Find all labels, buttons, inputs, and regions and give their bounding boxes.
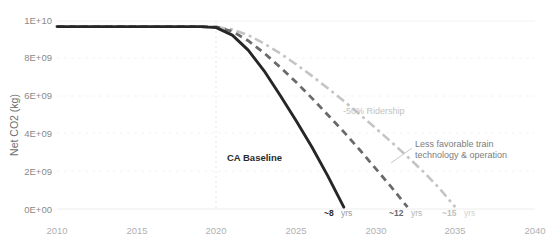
annotation-baseline-unit: yrs: [341, 208, 352, 218]
y-tick-4e09: 4E+09: [24, 128, 52, 139]
x-tick-2040: 2040: [524, 225, 545, 236]
annotation-ridership-years: ~15: [442, 208, 457, 218]
annotation-ridership-unit: yrs: [464, 208, 475, 218]
x-tick-2010: 2010: [46, 225, 67, 236]
series-line-ca-baseline: [57, 27, 344, 208]
co2-decarbonization-line-chart: 1E+10 8E+09 6E+09 4E+09 2E+09 0E+00 2010…: [0, 0, 549, 251]
series-line-tech: [57, 27, 408, 208]
x-tick-2020: 2020: [205, 225, 226, 236]
x-tick-2015: 2015: [126, 225, 147, 236]
x-tick-2030: 2030: [365, 225, 386, 236]
label-tech-line2: technology & operation: [415, 150, 507, 160]
label-ridership: -50% Ridership: [343, 106, 405, 116]
x-tick-2035: 2035: [444, 225, 465, 236]
y-tick-0e00: 0E+00: [24, 204, 52, 215]
annotation-baseline-years: ~8: [324, 208, 334, 218]
y-axis-title: Net CO2 (kg): [8, 94, 20, 156]
chart-container: 1E+10 8E+09 6E+09 4E+09 2E+09 0E+00 2010…: [0, 0, 549, 251]
y-axis-tick-labels: 1E+10 8E+09 6E+09 4E+09 2E+09 0E+00: [24, 15, 52, 215]
label-ca-baseline: CA Baseline: [227, 152, 282, 163]
y-tick-6e09: 6E+09: [24, 90, 52, 101]
label-tech-line1: Less favorable train: [415, 139, 494, 149]
series-line-ridership-visible: [57, 27, 455, 208]
y-tick-1e10: 1E+10: [24, 15, 52, 26]
y-tick-2e09: 2E+09: [24, 166, 52, 177]
annotation-tech-unit: yrs: [411, 208, 422, 218]
annotation-tech-years: ~12: [389, 208, 404, 218]
x-axis-tick-labels: 2010 2015 2020 2025 2030 2035 2040: [46, 225, 545, 236]
x-tick-2025: 2025: [285, 225, 306, 236]
horizontal-gridlines: [57, 21, 535, 209]
y-tick-8e09: 8E+09: [24, 52, 52, 63]
